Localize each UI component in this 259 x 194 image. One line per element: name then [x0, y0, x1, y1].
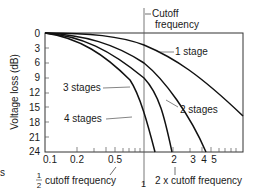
half-cutoff-label: cutoff frequency [45, 175, 116, 186]
half-cutoff-denominator: 2 [37, 181, 42, 190]
cutoff-label-line2: frequency [155, 19, 199, 30]
label-4-stages: 4 stages [64, 113, 102, 124]
x-tick-label: 5 [211, 154, 217, 165]
label-3-stages: 3 stages [63, 82, 101, 93]
y-tick-label: 24 [29, 146, 41, 157]
y-tick-label: 15 [29, 102, 41, 113]
x-axis-ticks [77, 147, 236, 152]
x-tick-label: 0.2 [70, 154, 84, 165]
x-tick-label: 0.1 [43, 154, 57, 165]
y-axis-ticks: 0 3 6 9 12 15 18 21 24 [29, 28, 49, 157]
cutoff-label-line1: Cutoff [152, 8, 179, 19]
leader-4-stages [106, 117, 132, 119]
y-tick-label: 12 [29, 87, 41, 98]
x-tick-label: 2 [171, 154, 177, 165]
label-2-stages: 2 stages [180, 104, 218, 115]
label-1-stage: 1 stage [175, 46, 208, 57]
edge-text-fragment: s [0, 167, 5, 178]
x-tick-label: 3 [190, 154, 196, 165]
leader-3-stages [103, 87, 130, 88]
voltage-loss-chart: Voltage loss (dB) 0 3 6 9 12 15 18 21 24 [0, 0, 259, 194]
y-tick-label: 9 [34, 72, 40, 83]
y-tick-label: 6 [34, 57, 40, 68]
y-tick-label: 21 [29, 132, 41, 143]
x-tick-label: 4 [201, 154, 207, 165]
half-cutoff-arrow [110, 167, 116, 175]
leader-2-stages [166, 100, 178, 107]
x-axis-tick-labels: 0.1 0.2 0.5 2 3 4 5 [43, 154, 217, 165]
double-cutoff-label: 2 x cutoff frequency [155, 175, 242, 186]
half-cutoff-numerator: 1 [37, 171, 42, 180]
y-tick-label: 3 [34, 43, 40, 54]
x-tick-label: 0.5 [108, 154, 122, 165]
y-axis-title: Voltage loss (dB) [9, 54, 20, 130]
one-marker: 1 [141, 179, 146, 189]
y-tick-label: 18 [29, 117, 41, 128]
y-tick-label: 0 [34, 28, 40, 39]
